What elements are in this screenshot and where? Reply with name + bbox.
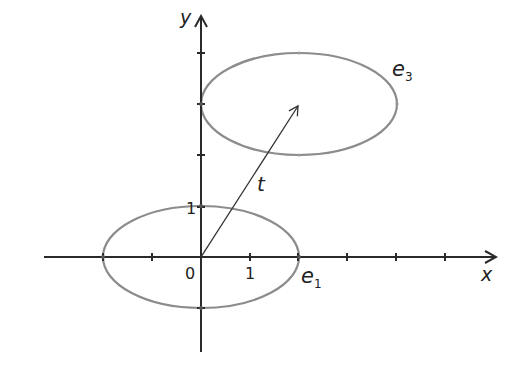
vector-t xyxy=(201,106,298,257)
coordinate-diagram: y x 0 1 1 t e1 e3 xyxy=(0,0,518,375)
e3-main: e xyxy=(392,57,405,81)
y-unit-label: 1 xyxy=(186,199,196,218)
e1-sub: 1 xyxy=(314,277,322,291)
e3-sub: 3 xyxy=(405,70,413,84)
vector-label-t: t xyxy=(257,172,266,196)
e1-main: e xyxy=(301,264,314,288)
x-unit-label: 1 xyxy=(245,264,255,283)
y-axis-label: y xyxy=(179,6,192,28)
ellipse-e3-label: e3 xyxy=(392,57,413,84)
x-axis-label: x xyxy=(480,263,493,285)
ellipse-e1-label: e1 xyxy=(301,264,322,291)
origin-label: 0 xyxy=(185,264,195,283)
ellipse-e3 xyxy=(201,53,397,155)
